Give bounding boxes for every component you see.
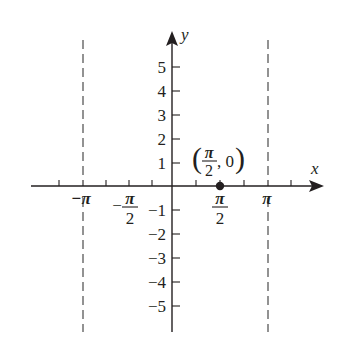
point-pi-over-2 bbox=[216, 182, 224, 190]
svg-text:π: π bbox=[215, 189, 225, 208]
y-tick-label: 4 bbox=[158, 82, 167, 101]
svg-text:2: 2 bbox=[126, 209, 135, 228]
y-tick-label: −2 bbox=[148, 225, 166, 244]
y-tick-label: 1 bbox=[158, 154, 167, 173]
x-axis-label: x bbox=[310, 159, 319, 178]
svg-text:π: π bbox=[205, 144, 215, 161]
svg-text:): ) bbox=[235, 141, 245, 175]
y-tick-label: 2 bbox=[158, 130, 167, 149]
y-tick-label: 5 bbox=[158, 58, 167, 77]
svg-text:π: π bbox=[125, 189, 135, 208]
svg-text:−: − bbox=[112, 196, 122, 215]
x-ticks bbox=[59, 180, 291, 186]
svg-text:, 0: , 0 bbox=[217, 152, 234, 171]
svg-text:2: 2 bbox=[216, 209, 225, 228]
point-label: ( π 2 , 0 ) bbox=[192, 141, 245, 179]
y-tick-label: −5 bbox=[148, 297, 166, 316]
x-tick-label-pi: π bbox=[262, 189, 272, 208]
y-axis-label: y bbox=[179, 25, 189, 44]
x-tick-label-neg-pi-over-2: − π 2 bbox=[112, 189, 138, 228]
y-tick-label: 3 bbox=[158, 106, 167, 125]
x-tick-label-pi-over-2: π 2 bbox=[212, 189, 228, 228]
y-tick-label: −1 bbox=[148, 201, 166, 220]
coordinate-plane: y x 5 4 3 2 1 −1 −2 −3 −4 −5 −π − π 2 π … bbox=[0, 0, 345, 342]
y-tick-label: −3 bbox=[148, 249, 166, 268]
y-tick-label: −4 bbox=[148, 273, 167, 292]
svg-text:2: 2 bbox=[205, 162, 213, 179]
svg-text:(: ( bbox=[192, 141, 202, 175]
y-tick-labels: 5 4 3 2 1 −1 −2 −3 −4 −5 bbox=[148, 58, 167, 316]
x-tick-label-neg-pi: −π bbox=[71, 189, 91, 208]
